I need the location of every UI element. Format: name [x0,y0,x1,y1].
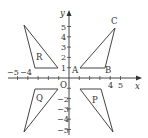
x-tick-label-neg4: −4 [20,68,32,77]
y-axis: 5 4 3 2 1 −2 −3 −4 −5 y O [57,8,72,135]
x-axis-label: x [135,81,140,91]
triangle-p: P [80,89,113,132]
vertex-label-c: C [111,16,118,26]
y-tick-label-5: 5 [61,23,66,32]
x-tick-label-5: 5 [118,81,123,90]
coordinate-diagram: −5 −4 4 5 x 5 4 3 2 1 −2 −3 −4 −5 y O A [0,0,148,138]
shape-label-p: P [92,95,98,105]
y-tick-label-2: 2 [61,53,66,62]
y-tick-label-3: 3 [61,43,66,52]
y-tick-label-neg3: −3 [57,105,69,114]
shape-label-r: R [36,52,43,62]
shape-label-q: Q [36,93,43,103]
y-tick-label-neg2: −2 [57,95,69,104]
x-tick-label-neg5: −5 [7,68,19,77]
y-tick-label-neg4: −4 [57,115,69,124]
triangle-abc: A B C [71,16,118,75]
x-axis-arrow-icon [136,76,142,81]
y-tick-label-neg5: −5 [57,126,69,135]
origin-label: O [60,80,67,90]
triangle-r: R [24,25,58,68]
vertex-label-b: B [105,65,111,75]
y-axis-arrow-icon [67,10,72,16]
triangle-q: Q [24,89,58,132]
y-axis-label: y [59,8,65,18]
y-tick-label-4: 4 [61,33,66,42]
vertex-label-a: A [71,65,79,75]
x-tick-label-4: 4 [108,81,113,90]
y-tick-label-1: 1 [61,64,66,73]
